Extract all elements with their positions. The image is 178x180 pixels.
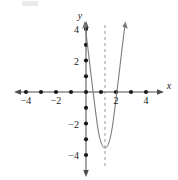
y-tick-dot [84,137,88,141]
y-axis-bottom-arrow-icon [83,170,89,177]
x-tick-label: −4 [21,95,32,106]
y-tick-dot [84,121,88,125]
x-tick-dot [129,90,133,94]
y-tick-dot [84,74,88,78]
scan-artifact [22,1,38,6]
x-tick-dot [54,90,58,94]
x-tick-label: −2 [51,95,62,106]
x-axis [14,89,164,95]
y-tick-label: −2 [68,119,79,130]
y-tick-dot [84,153,88,157]
x-tick-label: 4 [144,95,149,106]
y-tick-label: 4 [74,24,79,35]
y-tick-dot [84,106,88,110]
parabola-plot: −4 −2 2 4 4 2 −2 −4 x y [0,0,178,180]
x-tick-labels: −4 −2 2 4 [21,95,149,106]
x-tick-dot [24,90,28,94]
x-tick-dot [69,90,73,94]
y-axis-label: y [77,10,83,21]
y-tick-label: 2 [74,56,79,67]
y-tick-label: −4 [68,150,79,161]
x-tick-dot [39,90,43,94]
x-axis-label: x [166,80,172,91]
x-tick-marks [24,90,148,94]
y-tick-dot [84,58,88,62]
x-axis-left-arrow-icon [14,89,21,95]
x-tick-dot-origin [84,90,88,94]
x-tick-dot [99,90,103,94]
x-tick-dot [144,90,148,94]
graph-figure: −4 −2 2 4 4 2 −2 −4 x y [0,0,178,180]
x-axis-right-arrow-icon [157,89,164,95]
x-tick-label: 2 [114,95,119,106]
